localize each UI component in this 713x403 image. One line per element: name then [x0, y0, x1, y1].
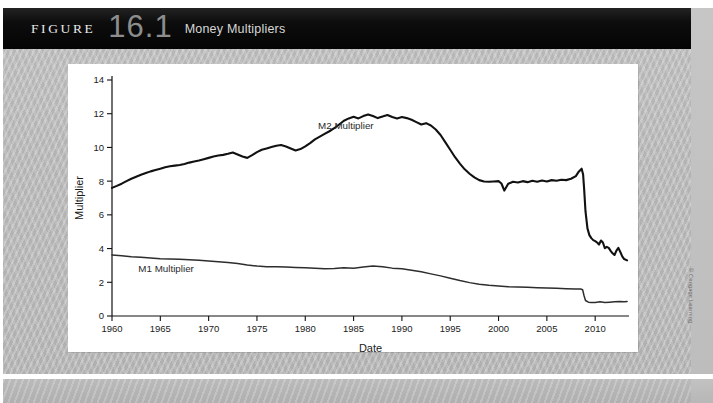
x-tick-label: 1975	[246, 323, 267, 334]
y-tick-label: 0	[99, 310, 104, 321]
figure-title: Money Multipliers	[185, 22, 286, 36]
chart-series	[112, 114, 627, 302]
x-tick-label: 1965	[150, 323, 171, 334]
y-tick-label: 8	[99, 176, 104, 187]
y-tick-label: 10	[93, 142, 104, 153]
y-tick-label: 12	[93, 108, 104, 119]
figure-number: 16.1	[108, 9, 172, 45]
figure-page: FIGURE 16.1 Money Multipliers 0246810121…	[0, 0, 713, 403]
x-tick-label: 1970	[198, 323, 219, 334]
y-tick-label: 4	[99, 243, 104, 254]
x-tick-label: 2010	[585, 323, 606, 334]
figure-word: FIGURE	[31, 21, 95, 37]
x-tick-label: 2000	[488, 323, 509, 334]
page-background-right-margin	[691, 8, 713, 374]
copyright-credit: © Cengage Learning	[688, 268, 694, 323]
figure-banner: FIGURE 16.1 Money Multipliers	[3, 8, 691, 49]
y-tick-label: 2	[99, 277, 104, 288]
x-tick-label: 1990	[391, 323, 412, 334]
y-axis-title: Multiplier	[73, 176, 85, 220]
x-tick-label: 1960	[101, 323, 122, 334]
page-lower-band-right	[691, 379, 713, 403]
series-annotation: M1 Multiplier	[138, 263, 194, 274]
x-tick-label: 1995	[440, 323, 461, 334]
money-multipliers-chart: 0246810121419601965197019751980198519901…	[68, 64, 638, 352]
x-tick-label: 1985	[343, 323, 364, 334]
series-line-m2-multiplier	[112, 114, 627, 260]
y-tick-label: 14	[93, 74, 104, 85]
chart-axes: 0246810121419601965197019751980198519901…	[93, 74, 629, 334]
page-lower-band	[3, 379, 691, 403]
x-axis-title: Date	[359, 342, 382, 352]
y-tick-label: 6	[99, 209, 104, 220]
series-annotation: M2 Multiplier	[318, 120, 374, 131]
x-tick-label: 1980	[295, 323, 316, 334]
chart-panel: 0246810121419601965197019751980198519901…	[68, 64, 638, 352]
chart-annotations: M2 MultiplierM1 Multiplier	[138, 120, 374, 274]
x-tick-label: 2005	[536, 323, 557, 334]
banner-content: FIGURE 16.1 Money Multipliers	[31, 8, 285, 49]
